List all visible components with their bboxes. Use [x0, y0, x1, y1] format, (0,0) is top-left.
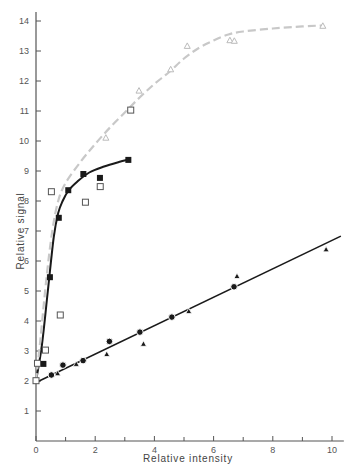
filled-square-marker [125, 157, 131, 163]
filled-square-marker [65, 187, 71, 193]
open-square-marker [33, 378, 39, 384]
fit-curves [36, 26, 341, 383]
open-square-marker [82, 199, 88, 205]
y-tick-label: 11 [20, 106, 29, 116]
chart: 12345678910111213140246810 Relative inte… [0, 0, 353, 470]
axes: 12345678910111213140246810 [19, 12, 344, 455]
y-tick-label: 13 [19, 46, 29, 56]
open-triangle-marker [168, 66, 174, 72]
filled-circle-marker [231, 284, 238, 291]
filled-square-marker [80, 171, 86, 177]
x-tick-label: 0 [33, 445, 38, 455]
filled-circle-marker [80, 357, 87, 364]
filled-triangle-marker [140, 341, 146, 347]
filled-square-marker [40, 361, 46, 367]
y-tick-label: 2 [24, 376, 29, 386]
open-triangle-marker [184, 43, 190, 49]
filled-circle-marker [137, 329, 144, 336]
x-axis-title: Relative intensity [143, 453, 233, 464]
filled-triangle-marker [104, 351, 110, 357]
filled-circle-marker [48, 372, 55, 379]
y-tick-label: 14 [19, 16, 29, 26]
open-square-marker [57, 312, 63, 318]
filled-circle-marker [60, 362, 67, 369]
open-square-marker [34, 360, 40, 366]
filled-square-marker [47, 274, 53, 280]
filled-triangle-marker [323, 246, 329, 252]
open-triangle-marker [136, 88, 142, 94]
open-square-marker [128, 107, 134, 113]
y-tick-label: 3 [24, 346, 29, 356]
fit-curve-1 [36, 26, 323, 382]
x-tick-label: 10 [327, 445, 337, 455]
y-axis-title: Relative signal [15, 192, 26, 269]
filled-circle-marker [169, 314, 176, 321]
y-tick-label: 1 [24, 406, 29, 416]
x-tick-label: 2 [93, 445, 98, 455]
filled-circle-marker [106, 338, 113, 345]
y-tick-label: 5 [24, 286, 29, 296]
x-tick-label: 8 [270, 445, 275, 455]
y-tick-label: 9 [24, 166, 29, 176]
filled-triangle-marker [234, 273, 240, 279]
data-markers [33, 23, 329, 384]
y-tick-label: 10 [19, 136, 29, 146]
open-square-marker [42, 347, 48, 353]
y-tick-label: 12 [19, 76, 29, 86]
open-square-marker [97, 184, 103, 190]
filled-square-marker [56, 215, 62, 221]
y-tick-label: 4 [24, 316, 29, 326]
filled-square-marker [97, 175, 103, 181]
open-triangle-marker [103, 135, 109, 141]
open-square-marker [48, 189, 54, 195]
